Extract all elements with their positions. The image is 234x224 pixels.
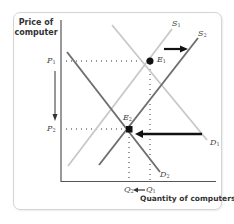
x-axis-label: Quantity of computers — [140, 194, 220, 203]
quantity-label-q1: Q1 — [146, 185, 156, 194]
price-drop-arrowhead-icon — [53, 114, 58, 121]
price-label-p1: P1 — [47, 56, 56, 65]
supply-curve-s2 — [99, 38, 198, 165]
curve-label-d1: D1 — [210, 138, 220, 147]
curve-label-s2: S2 — [198, 29, 207, 38]
demand-curve-d2 — [67, 52, 160, 172]
curve-label-d2: D2 — [160, 170, 170, 179]
demand-curve-d1 — [112, 25, 207, 140]
equilibrium-point-e1 — [147, 58, 154, 65]
quantity-arrowhead-icon — [133, 188, 138, 193]
supply-curve-s1 — [68, 29, 172, 166]
equilibrium-point-e2 — [126, 126, 133, 133]
price-label-p2: P2 — [47, 124, 56, 133]
quantity-label-q2: Q2 — [124, 185, 134, 194]
equilibrium-label-e1: E1 — [157, 55, 166, 64]
demand-shift-arrowhead-icon — [135, 130, 143, 138]
curve-label-s1: S1 — [172, 19, 181, 28]
y-axis-label: Price of computer — [14, 18, 58, 38]
equilibrium-label-e2: E2 — [123, 113, 132, 122]
